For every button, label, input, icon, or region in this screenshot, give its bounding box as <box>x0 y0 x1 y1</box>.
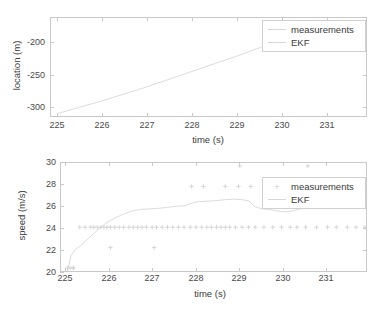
measurement-marker <box>160 225 164 229</box>
measurement-marker <box>188 225 192 229</box>
measurement-marker <box>214 225 218 229</box>
measurement-marker <box>306 164 310 168</box>
measurement-marker <box>295 225 299 229</box>
measurement-marker <box>249 184 253 188</box>
legend-entry-ekf[interactable]: EKF <box>266 193 361 206</box>
measurement-marker <box>233 225 237 229</box>
measurement-marker <box>205 225 209 229</box>
legend-entry-ekf[interactable]: EKF <box>266 36 361 49</box>
location-ekf-line <box>57 42 274 114</box>
measurement-marker <box>135 225 139 229</box>
measurement-marker <box>113 225 117 229</box>
measurement-marker <box>150 225 154 229</box>
speed-panel: 30 28 26 24 22 20 225 226 227 <box>0 155 387 314</box>
measurement-marker <box>201 184 205 188</box>
measurement-marker <box>236 184 240 188</box>
measurement-marker <box>140 225 144 229</box>
legend-label-measurements: measurements <box>291 24 354 35</box>
measurement-marker <box>176 225 180 229</box>
location-panel: -200 -250 -300 225 226 227 228 229 230 2… <box>0 0 387 155</box>
measurements-marker-icon: + <box>266 181 288 192</box>
ekf-line-icon <box>266 37 288 48</box>
measurement-marker <box>71 266 75 270</box>
measurement-marker <box>194 225 198 229</box>
measurement-marker <box>154 225 158 229</box>
measurement-marker <box>246 225 250 229</box>
measurement-marker <box>209 225 213 229</box>
measurement-marker <box>171 225 175 229</box>
legend-label-ekf: EKF <box>291 37 309 48</box>
measurement-marker <box>83 225 87 229</box>
measurement-marker <box>121 225 125 229</box>
measurement-marker <box>108 245 112 249</box>
measurement-marker <box>127 225 131 229</box>
matlab-figure: -200 -250 -300 225 226 227 228 229 230 2… <box>0 0 387 314</box>
measurement-marker <box>189 184 193 188</box>
legend-label-measurements: measurements <box>291 181 354 192</box>
measurement-marker <box>303 225 307 229</box>
measurement-marker <box>345 225 349 229</box>
measurement-marker <box>182 225 186 229</box>
measurement-marker <box>240 225 244 229</box>
measurement-marker <box>131 225 135 229</box>
measurement-marker <box>288 225 292 229</box>
measurement-marker <box>238 164 242 168</box>
measurement-marker <box>279 225 283 229</box>
measurement-marker <box>314 225 318 229</box>
measurement-marker <box>262 225 266 229</box>
measurement-marker <box>223 225 227 229</box>
measurement-marker <box>253 225 257 229</box>
location-legend[interactable]: measurements EKF <box>262 20 366 52</box>
speed-legend[interactable]: + measurements EKF <box>262 177 366 209</box>
measurement-marker <box>219 225 223 229</box>
measurement-marker <box>354 225 358 229</box>
measurement-marker <box>165 225 169 229</box>
ekf-line-icon <box>266 194 288 205</box>
measurement-marker <box>228 225 232 229</box>
measurements-marker-icon <box>266 24 288 35</box>
measurement-marker <box>271 225 275 229</box>
measurement-marker <box>144 225 148 229</box>
measurement-marker <box>223 184 227 188</box>
measurement-marker <box>199 225 203 229</box>
measurement-marker <box>325 225 329 229</box>
measurement-marker <box>152 245 156 249</box>
measurement-marker <box>108 225 112 229</box>
legend-entry-measurements[interactable]: measurements <box>266 23 361 36</box>
plus-icon: + <box>274 182 279 191</box>
measurement-marker <box>334 225 338 229</box>
measurement-marker <box>363 225 367 229</box>
legend-label-ekf: EKF <box>291 194 309 205</box>
measurement-marker <box>117 225 121 229</box>
measurement-marker <box>78 225 82 229</box>
speed-ekf-line <box>67 199 367 271</box>
legend-entry-measurements[interactable]: + measurements <box>266 180 361 193</box>
